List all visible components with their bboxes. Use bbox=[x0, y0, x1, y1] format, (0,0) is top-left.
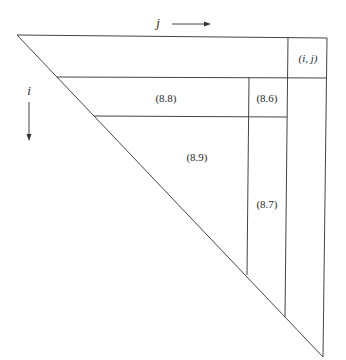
inner-column-divider bbox=[247, 77, 249, 275]
row-index-label: i bbox=[27, 84, 31, 97]
column-j-divider bbox=[285, 37, 288, 317]
matrix-diagram bbox=[0, 0, 346, 360]
block-divider bbox=[94, 116, 287, 117]
column-block-label: (8.7) bbox=[256, 199, 277, 210]
i-arrow-icon bbox=[27, 102, 32, 141]
outer-triangle bbox=[17, 35, 327, 357]
row-block-label: (8.8) bbox=[155, 93, 176, 104]
row-i-divider bbox=[57, 77, 327, 78]
entry-label: (i, j) bbox=[299, 53, 318, 64]
triangle-block-label: (8.9) bbox=[186, 152, 207, 163]
small-block-label: (8.6) bbox=[256, 93, 277, 104]
column-index-label: j bbox=[156, 16, 160, 29]
j-arrow-icon bbox=[172, 22, 211, 27]
